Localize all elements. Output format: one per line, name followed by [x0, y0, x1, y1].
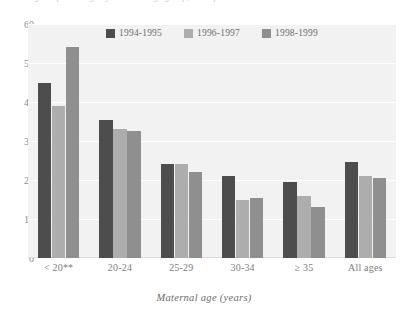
- bars-container: [28, 24, 396, 258]
- plot-area: 1994-19951996-19971998-1999: [28, 24, 396, 258]
- chart-figure: Figure: percentage by maternal age group…: [0, 0, 408, 320]
- x-axis-tick-label: All ages: [348, 262, 383, 273]
- figure-caption-clipped: Figure: percentage by maternal age group…: [26, 0, 396, 11]
- bar[interactable]: [297, 196, 311, 258]
- x-axis-tick-label: ≥ 35: [295, 262, 314, 273]
- bar[interactable]: [113, 129, 127, 258]
- bar[interactable]: [161, 164, 175, 258]
- bar-group: [38, 24, 80, 258]
- bar-group: [161, 24, 203, 258]
- bar[interactable]: [222, 176, 236, 258]
- bar-group: [99, 24, 141, 258]
- bar[interactable]: [236, 200, 250, 259]
- bar[interactable]: [189, 172, 203, 258]
- bar[interactable]: [175, 164, 189, 258]
- bar-group: [345, 24, 387, 258]
- x-axis-tick-label: < 20**: [44, 262, 73, 273]
- x-axis-title: Maternal age (years): [0, 292, 408, 303]
- bar[interactable]: [283, 182, 297, 258]
- bar[interactable]: [311, 207, 325, 258]
- bar[interactable]: [373, 178, 387, 258]
- bar[interactable]: [345, 162, 359, 258]
- bar-group: [283, 24, 325, 258]
- bar-group: [222, 24, 264, 258]
- bar[interactable]: [250, 198, 264, 258]
- bar[interactable]: [127, 131, 141, 258]
- figure-caption-text: Figure: percentage by maternal age group…: [26, 0, 242, 2]
- x-axis-tick-label: 25-29: [169, 262, 193, 273]
- x-axis-tick-label: 30-34: [230, 262, 254, 273]
- x-axis-tick-label: 20-24: [108, 262, 132, 273]
- bar[interactable]: [359, 176, 373, 258]
- bar[interactable]: [38, 83, 52, 259]
- bar[interactable]: [52, 106, 66, 258]
- bar[interactable]: [99, 120, 113, 258]
- bar[interactable]: [66, 47, 80, 258]
